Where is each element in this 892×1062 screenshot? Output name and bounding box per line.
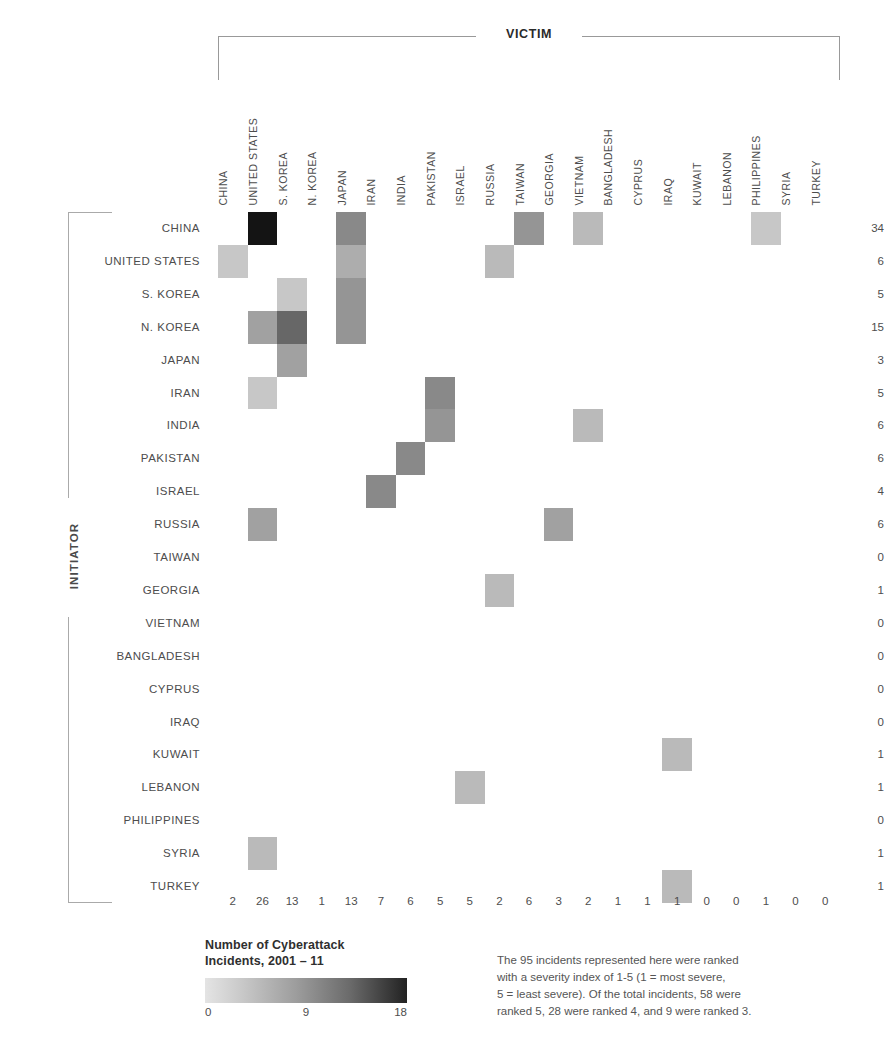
heatmap-cell bbox=[248, 311, 278, 344]
victim-column-label: TAIWAN bbox=[506, 86, 536, 206]
victim-column-label: LEBANON bbox=[713, 86, 743, 206]
row-total-value: 0 bbox=[840, 706, 884, 739]
column-total-value: 26 bbox=[248, 890, 278, 912]
victim-column-label: ISRAEL bbox=[447, 86, 477, 206]
heatmap-cell bbox=[396, 442, 426, 475]
heatmap-cell bbox=[277, 311, 307, 344]
row-totals-column: 34651535664601000011011 bbox=[840, 212, 892, 903]
column-total-value: 6 bbox=[396, 890, 426, 912]
column-total-value: 1 bbox=[633, 890, 663, 912]
initiator-row-label: INDIA bbox=[0, 409, 200, 442]
victim-bracket-tick-right bbox=[839, 36, 840, 80]
column-total-value: 2 bbox=[573, 890, 603, 912]
heatmap-cell bbox=[573, 212, 603, 245]
heatmap-cell bbox=[751, 212, 781, 245]
legend-tick-mid: 9 bbox=[303, 1006, 309, 1018]
column-total-value: 1 bbox=[307, 890, 337, 912]
row-total-value: 0 bbox=[840, 607, 884, 640]
victim-column-label: UNITED STATES bbox=[239, 86, 269, 206]
column-total-value: 6 bbox=[514, 890, 544, 912]
row-total-value: 34 bbox=[840, 212, 884, 245]
footnote-line-4: ranked 5, 28 were ranked 4, and 9 were r… bbox=[497, 1003, 869, 1020]
victim-column-label: N. KOREA bbox=[299, 86, 329, 206]
footnote-line-1: The 95 incidents represented here were r… bbox=[497, 952, 869, 969]
column-total-value: 13 bbox=[336, 890, 366, 912]
initiator-row-label: BANGLADESH bbox=[0, 640, 200, 673]
row-total-value: 4 bbox=[840, 475, 884, 508]
column-total-value: 0 bbox=[722, 890, 752, 912]
initiator-row-label: RUSSIA bbox=[0, 508, 200, 541]
heatmap-cell bbox=[573, 409, 603, 442]
victim-column-label: JAPAN bbox=[328, 86, 358, 206]
victim-column-label: IRAN bbox=[358, 86, 388, 206]
initiator-row-label: UNITED STATES bbox=[0, 245, 200, 278]
row-total-value: 0 bbox=[840, 804, 884, 837]
row-total-value: 6 bbox=[840, 508, 884, 541]
cyberattack-matrix-figure: VICTIM INITIATOR CHINAUNITED STATESS. KO… bbox=[0, 0, 892, 1062]
footnote-line-2: with a severity index of 1-5 (1 = most s… bbox=[497, 969, 869, 986]
heatmap-cell bbox=[277, 278, 307, 311]
victim-axis-label: VICTIM bbox=[218, 27, 840, 41]
victim-column-label: VIETNAM bbox=[565, 86, 595, 206]
footnote-line-3: 5 = least severe). Of the total incident… bbox=[497, 986, 869, 1003]
column-total-value: 1 bbox=[603, 890, 633, 912]
victim-column-label: SYRIA bbox=[772, 86, 802, 206]
initiator-row-label: SYRIA bbox=[0, 837, 200, 870]
initiator-row-label: IRAN bbox=[0, 377, 200, 410]
initiator-row-label: GEORGIA bbox=[0, 574, 200, 607]
victim-column-label: RUSSIA bbox=[476, 86, 506, 206]
initiator-row-label: KUWAIT bbox=[0, 738, 200, 771]
heatmap-cell bbox=[485, 245, 515, 278]
victim-column-label: PAKISTAN bbox=[417, 86, 447, 206]
column-total-value: 5 bbox=[455, 890, 485, 912]
heatmap-cell bbox=[544, 508, 574, 541]
column-total-value: 0 bbox=[692, 890, 722, 912]
heatmap-cell bbox=[485, 574, 515, 607]
row-total-value: 1 bbox=[840, 574, 884, 607]
row-total-value: 6 bbox=[840, 442, 884, 475]
victim-column-label: KUWAIT bbox=[684, 86, 714, 206]
heatmap-grid bbox=[218, 212, 840, 903]
legend-tick-max: 18 bbox=[394, 1006, 407, 1018]
heatmap-cell bbox=[248, 837, 278, 870]
initiator-row-label: PAKISTAN bbox=[0, 442, 200, 475]
row-total-value: 0 bbox=[840, 541, 884, 574]
legend-scale-ticks: 0 9 18 bbox=[205, 1006, 407, 1022]
column-total-value: 0 bbox=[781, 890, 811, 912]
row-total-value: 1 bbox=[840, 870, 884, 903]
column-total-value: 3 bbox=[544, 890, 574, 912]
legend-title-line-2: Incidents, 2001 – 11 bbox=[205, 954, 435, 970]
row-total-value: 0 bbox=[840, 640, 884, 673]
row-total-value: 1 bbox=[840, 771, 884, 804]
victim-column-label: PHILIPPINES bbox=[743, 86, 773, 206]
legend: Number of Cyberattack Incidents, 2001 – … bbox=[205, 938, 455, 1022]
initiator-row-label: IRAQ bbox=[0, 706, 200, 739]
heatmap-cell bbox=[248, 508, 278, 541]
initiator-row-label: PHILIPPINES bbox=[0, 804, 200, 837]
row-total-value: 15 bbox=[840, 311, 884, 344]
victim-column-label: INDIA bbox=[387, 86, 417, 206]
footnote: The 95 incidents represented here were r… bbox=[497, 952, 869, 1020]
heatmap-cell bbox=[662, 738, 692, 771]
heatmap-cell bbox=[336, 278, 366, 311]
heatmap-cell bbox=[514, 212, 544, 245]
legend-color-gradient bbox=[205, 978, 407, 1003]
victim-column-label: BANGLADESH bbox=[595, 86, 625, 206]
row-total-value: 3 bbox=[840, 344, 884, 377]
row-total-value: 6 bbox=[840, 409, 884, 442]
legend-title: Number of Cyberattack Incidents, 2001 – … bbox=[205, 938, 435, 969]
victim-column-label: S. KOREA bbox=[269, 86, 299, 206]
heatmap-cell bbox=[248, 377, 278, 410]
heatmap-cell bbox=[218, 245, 248, 278]
heatmap-cell bbox=[336, 212, 366, 245]
heatmap-cell bbox=[336, 245, 366, 278]
heatmap-cell bbox=[425, 377, 455, 410]
heatmap-cell bbox=[248, 212, 278, 245]
row-total-value: 6 bbox=[840, 245, 884, 278]
column-total-value: 2 bbox=[485, 890, 515, 912]
initiator-row-label: N. KOREA bbox=[0, 311, 200, 344]
column-total-value: 5 bbox=[425, 890, 455, 912]
victim-column-label: GEORGIA bbox=[536, 86, 566, 206]
initiator-row-labels: CHINAUNITED STATESS. KOREAN. KOREAJAPANI… bbox=[0, 212, 210, 903]
heatmap-cell bbox=[425, 409, 455, 442]
